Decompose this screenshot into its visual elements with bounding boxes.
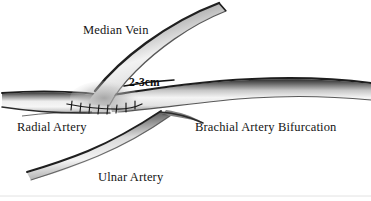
label-brachial-artery-bifurcation: Brachial Artery Bifurcation xyxy=(195,121,337,134)
label-measurement-2-3cm: 2-3cm xyxy=(129,77,160,89)
anatomical-figure: Median Vein 2-3cm Radial Artery Brachial… xyxy=(0,0,371,201)
label-median-vein: Median Vein xyxy=(83,24,149,37)
vessel-illustration xyxy=(0,0,371,201)
label-ulnar-artery: Ulnar Artery xyxy=(98,171,163,184)
label-radial-artery: Radial Artery xyxy=(17,121,87,134)
